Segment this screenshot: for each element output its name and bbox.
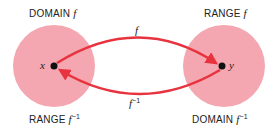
range-f-inverse-superscript: −1 bbox=[72, 113, 80, 120]
point-y bbox=[219, 63, 226, 70]
domain-f-label: DOMAIN f bbox=[29, 7, 76, 19]
domain-f-symbol: f bbox=[73, 7, 76, 19]
domain-f-prefix: DOMAIN bbox=[29, 8, 70, 19]
point-x-label: x bbox=[40, 59, 45, 71]
range-f-symbol: f bbox=[244, 7, 247, 19]
range-f-prefix: RANGE bbox=[204, 8, 241, 19]
range-f-inverse-prefix: RANGE bbox=[29, 114, 66, 125]
point-y-label: y bbox=[229, 59, 234, 71]
domain-f-inverse-label: DOMAIN f−1 bbox=[192, 113, 248, 125]
domain-f-inverse-prefix: DOMAIN bbox=[192, 114, 233, 125]
arrow-f-symbol: f bbox=[135, 24, 138, 36]
range-f-label: RANGE f bbox=[204, 7, 247, 19]
range-f-inverse-label: RANGE f−1 bbox=[29, 113, 80, 125]
arrow-f-inverse-superscript: −1 bbox=[132, 97, 140, 104]
domain-f-inverse-superscript: −1 bbox=[239, 113, 247, 120]
arrow-f-inverse-label: f−1 bbox=[129, 97, 140, 109]
arrow-f-label: f bbox=[135, 24, 138, 36]
point-x bbox=[51, 63, 58, 70]
